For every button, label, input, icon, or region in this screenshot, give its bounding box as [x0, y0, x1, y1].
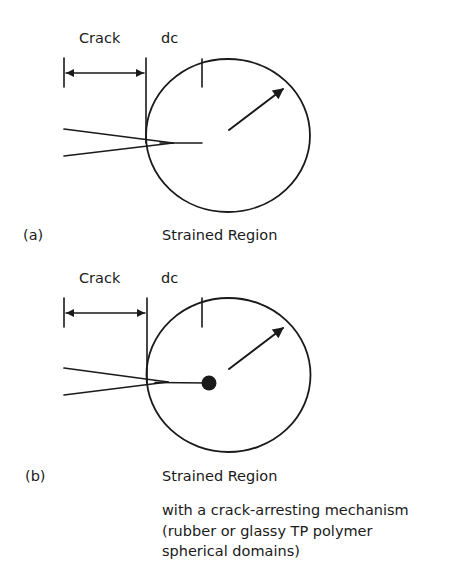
radius-arrow: [229, 89, 283, 130]
panel-b-region-label: Strained Region: [162, 469, 277, 484]
crack-upper-flank: [64, 368, 168, 382]
diagram-drawing: [0, 0, 469, 587]
strained-region-circle: [146, 59, 310, 212]
panel-a-drawing: [64, 58, 310, 212]
crack-strained-region-figure: Crack dc (a) Strained Region Crack dc (b…: [0, 0, 469, 587]
description-line: (rubber or glassy TP polymer: [162, 521, 409, 542]
crack-lower-flank: [64, 382, 168, 395]
strained-region-circle: [147, 298, 311, 452]
crack-tip-extension: [155, 383, 209, 384]
crack-lower-flank: [64, 143, 173, 156]
description-line: spherical domains): [162, 541, 409, 562]
description-line: with a crack-arresting mechanism: [162, 500, 409, 521]
panel-b-description: with a crack-arresting mechanism (rubber…: [162, 500, 409, 562]
radius-arrow: [229, 328, 283, 369]
panel-b-drawing: [64, 298, 311, 452]
crack-upper-flank: [64, 129, 173, 143]
crack-arresting-domain-dot: [202, 376, 217, 391]
panel-b-label: (b): [25, 469, 46, 484]
panel-b-dc-label: dc: [161, 271, 178, 286]
panel-a-region-label: Strained Region: [162, 228, 277, 243]
panel-b-crack-label: Crack: [79, 271, 120, 286]
panel-a-label: (a): [23, 228, 43, 243]
panel-a-dc-label: dc: [161, 31, 178, 46]
panel-a-crack-label: Crack: [79, 31, 120, 46]
